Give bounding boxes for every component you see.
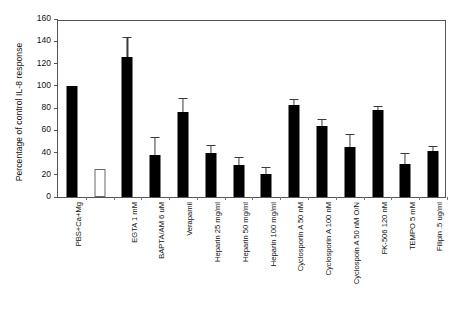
x-axis-label: Cyclosporin A 50 nM — [296, 202, 305, 271]
y-tick-label: 0 — [46, 191, 51, 201]
error-bar-cap — [179, 98, 188, 99]
error-bar-cap — [429, 146, 438, 147]
error-bar-cap — [123, 37, 132, 38]
y-tick-label: 100 — [37, 80, 51, 90]
x-tick-mark — [308, 197, 309, 200]
bar — [205, 153, 216, 198]
x-axis-label: Filipin .5 ug/ml — [435, 202, 444, 251]
error-bar — [210, 146, 211, 153]
bar — [66, 86, 77, 197]
y-tick-label: 160 — [37, 13, 51, 23]
bar — [178, 112, 189, 197]
y-tick-mark — [54, 19, 58, 20]
bar-open — [94, 169, 105, 197]
y-tick-label: 120 — [37, 58, 51, 68]
bar-slot — [253, 21, 281, 197]
x-axis-label: Cyclosporin A 100 nM — [324, 202, 333, 275]
x-axis-label: FK-506 120 nM — [380, 202, 389, 254]
bar — [372, 110, 383, 197]
x-axis-label: EGTA 1 mM — [130, 202, 139, 243]
bar — [150, 155, 161, 197]
bar-slot — [364, 21, 392, 197]
bar — [428, 151, 439, 197]
x-axis-label: PBS+Ca+Mg — [74, 202, 83, 246]
bar — [344, 147, 355, 197]
error-bar-cap — [206, 145, 215, 146]
x-axis-label: Heparin 50 mg/ml — [241, 202, 250, 262]
x-axis-label: Heparin 100 mg/ml — [269, 202, 278, 266]
x-tick-mark — [86, 197, 87, 200]
bar-slot — [225, 21, 253, 197]
error-bar-cap — [345, 134, 354, 135]
y-tick-label: 80 — [42, 102, 51, 112]
x-tick-mark — [336, 197, 337, 200]
bar — [122, 57, 133, 197]
bar-series — [58, 21, 445, 197]
il8-response-bar-chart: Percentage of control IL-8 response 0204… — [0, 0, 456, 336]
x-tick-mark — [364, 197, 365, 200]
bar-slot — [308, 21, 336, 197]
bar-slot — [280, 21, 308, 197]
x-axis-labels: PBS+Ca+MgEGTA 1 mMBAPTA/AM 6 uMVerapamil… — [57, 202, 446, 334]
bar-slot — [391, 21, 419, 197]
x-tick-mark — [225, 197, 226, 200]
error-bar — [377, 107, 378, 110]
x-tick-mark — [280, 197, 281, 200]
error-bar — [405, 154, 406, 164]
error-bar-cap — [290, 99, 299, 100]
error-bar — [294, 100, 295, 104]
bar-slot — [141, 21, 169, 197]
bar — [400, 164, 411, 197]
error-bar — [155, 138, 156, 155]
bar-slot — [169, 21, 197, 197]
x-axis-label: TEMPO 5 mM — [408, 202, 417, 250]
x-tick-mark — [141, 197, 142, 200]
error-bar-cap — [234, 157, 243, 158]
plot-area: 020406080100120140160 — [57, 20, 446, 198]
bar — [289, 105, 300, 197]
bar — [261, 174, 272, 197]
bar — [316, 126, 327, 197]
x-axis-label: Verapamil — [185, 202, 194, 236]
error-bar — [349, 135, 350, 147]
error-bar-cap — [373, 106, 382, 107]
y-tick-label: 40 — [42, 147, 51, 157]
x-tick-mark — [391, 197, 392, 200]
bar-slot — [86, 21, 114, 197]
x-tick-mark — [169, 197, 170, 200]
error-bar-cap — [401, 153, 410, 154]
error-bar — [127, 38, 128, 57]
y-tick-label: 140 — [37, 35, 51, 45]
x-axis-label: Heparin 25 mg/ml — [213, 202, 222, 262]
bar-slot — [336, 21, 364, 197]
error-bar-cap — [317, 119, 326, 120]
x-tick-mark — [447, 197, 448, 200]
x-axis-label: BAPTA/AM 6 uM — [157, 202, 166, 259]
error-bar-cap — [151, 137, 160, 138]
y-axis-title: Percentage of control IL-8 response — [14, 27, 24, 197]
bar — [233, 165, 244, 197]
x-axis-label: Cyclospoin A 50 nM O/N — [352, 202, 361, 284]
error-bar — [182, 99, 183, 112]
error-bar-cap — [262, 167, 271, 168]
error-bar — [321, 120, 322, 126]
bar-slot — [114, 21, 142, 197]
bar-slot — [197, 21, 225, 197]
y-tick-label: 60 — [42, 124, 51, 134]
bar-slot — [58, 21, 86, 197]
x-tick-mark — [197, 197, 198, 200]
error-bar — [433, 147, 434, 151]
error-bar — [266, 168, 267, 174]
x-tick-mark — [114, 197, 115, 200]
x-tick-mark — [252, 197, 253, 200]
bar-slot — [419, 21, 447, 197]
error-bar — [238, 158, 239, 165]
y-tick-label: 20 — [42, 169, 51, 179]
x-tick-mark — [419, 197, 420, 200]
